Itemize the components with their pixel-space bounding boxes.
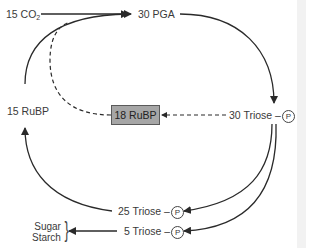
phosphate-icon: P (171, 206, 184, 219)
arrow-triose30-to-triose5 (184, 124, 276, 231)
triose-5-text: 5 Triose – (124, 225, 170, 237)
co2-label: 15 CO2 (6, 8, 40, 24)
arrow-triose25-to-rubp (25, 128, 112, 211)
pga-label: 30 PGA (138, 8, 175, 20)
triose-25-label: 25 Triose –P (118, 205, 184, 219)
arrow-rubp-to-pga (25, 14, 128, 84)
product-starch: Starch (32, 232, 61, 243)
arrow-triose30-to-triose25 (184, 124, 272, 211)
triose-25-text: 25 Triose – (118, 205, 170, 217)
rubp-15-label: 15 RuBP (7, 105, 49, 117)
triose-30-text: 30 Triose – (229, 109, 281, 121)
arrow-pga-to-triose30 (180, 14, 274, 103)
co2-count: 15 (6, 8, 18, 20)
co2-subscript: 2 (36, 14, 40, 21)
dashed-pool-to-pga (50, 22, 111, 115)
phosphate-icon: P (171, 226, 184, 239)
phosphate-icon: P (282, 110, 295, 123)
triose-30-label: 30 Triose –P (229, 109, 295, 123)
product-sugar: Sugar (32, 221, 61, 232)
brace-icon: } (64, 219, 68, 241)
co2-formula: CO (21, 8, 37, 20)
triose-5-label: 5 Triose –P (124, 225, 184, 239)
products-label: Sugar Starch (32, 221, 61, 243)
rubp-pool-box: 18 RuBP (111, 105, 160, 125)
